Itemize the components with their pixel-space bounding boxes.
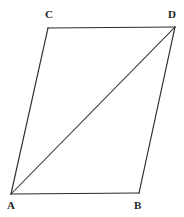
edge-bd-right	[139, 27, 175, 193]
vertex-label-c: C	[45, 9, 53, 20]
vertex-label-b: B	[134, 200, 142, 211]
figure-canvas	[0, 0, 184, 217]
edge-cd-top	[48, 27, 175, 28]
edge-ab-bottom	[11, 193, 139, 194]
vertex-label-d: D	[168, 9, 176, 20]
geometry-figure: A B C D	[0, 0, 184, 217]
vertex-label-a: A	[7, 200, 15, 211]
edge-ac-left	[11, 28, 48, 194]
diagonal-ad	[11, 27, 175, 194]
